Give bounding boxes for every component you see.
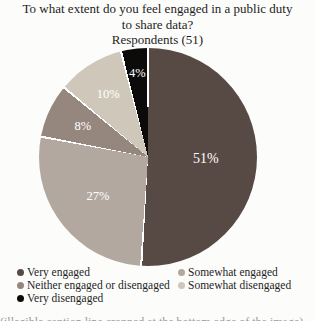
legend-item-neither-engaged-or-disengaged: Neither engaged or disengaged [17,279,178,292]
legend-item-somewhat-engaged: Somewhat engaged [178,266,309,279]
legend-label-very-disengaged: Very disengaged [27,292,103,305]
chart-title-line-1: To what extent do you feel engaged in a … [0,1,315,17]
legend-swatch-somewhat-engaged [178,269,185,276]
pie-chart-figure: To what extent do you feel engaged in a … [0,0,315,321]
cropped-caption-line: (illegible caption line cropped at the b… [0,315,313,321]
slice-label-very-engaged: 51% [193,151,219,167]
chart-title-block: To what extent do you feel engaged in a … [0,1,315,48]
legend-item-very-engaged: Very engaged [17,266,178,279]
legend-label-somewhat-disengaged: Somewhat disengaged [188,279,291,292]
legend-item-somewhat-disengaged: Somewhat disengaged [178,279,309,292]
chart-subtitle-respondents: Respondents (51) [0,32,315,48]
pie-chart [39,48,257,266]
chart-title-line-2: to share data? [0,17,315,33]
slice-label-somewhat-engaged: 27% [87,188,110,203]
slice-label-neither-engaged-or-disengaged: 8% [75,119,92,134]
legend-swatch-neither-engaged-or-disengaged [17,282,24,289]
slice-label-very-disengaged: 4% [129,65,146,80]
legend-item-very-disengaged: Very disengaged [17,292,178,305]
legend-label-somewhat-engaged: Somewhat engaged [188,266,278,279]
slice-label-somewhat-disengaged: 10% [97,87,120,102]
legend-label-neither-engaged-or-disengaged: Neither engaged or disengaged [27,279,170,292]
legend-swatch-somewhat-disengaged [178,282,185,289]
legend-label-very-engaged: Very engaged [27,266,90,279]
legend-swatch-very-engaged [17,269,24,276]
legend-swatch-very-disengaged [17,295,24,302]
legend: Very engagedSomewhat engagedNeither enga… [17,266,309,305]
